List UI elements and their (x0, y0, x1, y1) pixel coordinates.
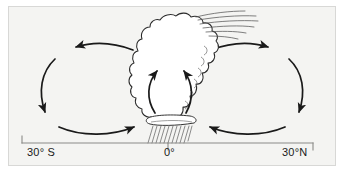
north-upper-outflow-arrow (211, 44, 268, 50)
north-descending-arrow (289, 59, 303, 112)
axis-label-south: 30° S (27, 146, 55, 158)
south-convection-cell (41, 44, 134, 135)
south-upper-outflow-arrow (76, 44, 133, 50)
north-surface-inflow-arrow (210, 127, 285, 134)
south-surface-inflow-arrow (59, 127, 134, 134)
axis-label-north: 30°N (282, 146, 307, 158)
north-convection-cell (210, 44, 303, 135)
axis-label-equator: 0° (164, 146, 175, 158)
rain-shaft (148, 126, 192, 143)
cloud-body (129, 13, 218, 122)
cumulonimbus-cloud (129, 11, 258, 125)
south-descending-arrow (41, 59, 55, 112)
cloud-base-shelf (146, 115, 196, 125)
weather-diagram-figure: 30° S 0° 30°N (0, 0, 344, 174)
